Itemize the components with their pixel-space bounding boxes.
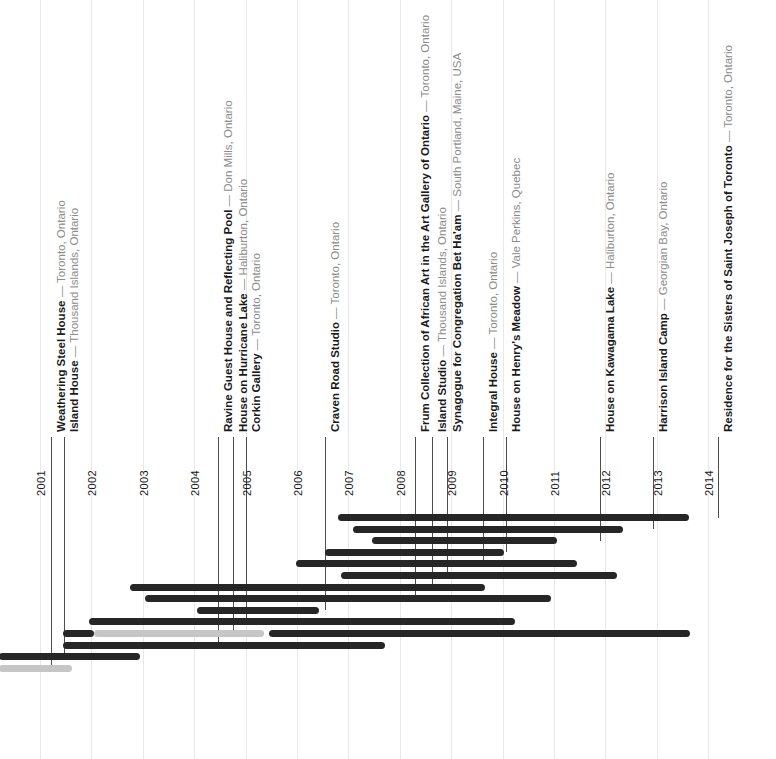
timeline-bar[interactable]	[145, 595, 551, 602]
timeline-bar[interactable]	[338, 514, 689, 521]
timeline-bar[interactable]	[0, 665, 72, 672]
timeline-bar[interactable]	[94, 630, 264, 637]
timeline-bar[interactable]	[197, 607, 319, 614]
timeline-bar[interactable]	[372, 537, 557, 544]
timeline-bar[interactable]	[353, 526, 624, 533]
timeline-bar[interactable]	[63, 630, 94, 637]
timeline-bar[interactable]	[63, 642, 385, 649]
timeline-bar[interactable]	[130, 584, 485, 591]
timeline-bars-layer	[0, 0, 776, 759]
timeline-bar[interactable]	[0, 653, 140, 660]
timeline-bar[interactable]	[296, 560, 577, 567]
timeline-bar[interactable]	[269, 630, 690, 637]
timeline-bar[interactable]	[341, 572, 617, 579]
timeline-bar[interactable]	[89, 618, 516, 625]
timeline-bar[interactable]	[325, 549, 503, 556]
timeline-chart: 2001200220032004200520062007200820092010…	[0, 0, 776, 759]
